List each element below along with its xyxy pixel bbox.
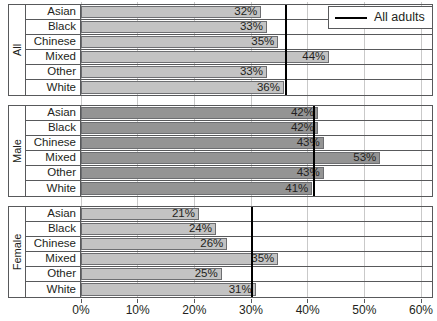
value-label-female-mixed: 35% (251, 253, 274, 265)
bar-cell: 35% (81, 252, 432, 266)
bar-cell: 24% (81, 222, 432, 236)
value-label-all-chinese: 35% (251, 36, 274, 48)
value-label-female-chinese: 26% (200, 238, 223, 250)
bar-cell: 53% (81, 151, 432, 165)
group-label-cell-female: Female (9, 207, 26, 297)
value-label-female-asian: 21% (172, 208, 195, 220)
bar-cell: 41% (81, 181, 432, 196)
bar-male-white (81, 182, 312, 195)
legend-line-marker-icon (335, 17, 367, 19)
bar-row: Chinese26% (26, 237, 432, 252)
value-label-all-white: 36% (257, 82, 280, 94)
legend-label-all-adults: All adults (374, 11, 425, 24)
value-label-all-mixed: 44% (302, 51, 325, 63)
tick-label-40: 40% (296, 304, 320, 316)
category-label-asian: Asian (26, 106, 81, 120)
bar-row: Asian42% (26, 106, 432, 121)
group-label-male: Male (11, 139, 23, 163)
value-label-male-asian: 42% (291, 107, 314, 119)
panel-female: FemaleAsian21%Black24%Chinese26%Mixed35%… (8, 206, 433, 298)
value-label-female-white: 31% (229, 284, 252, 296)
bar-all-mixed (81, 51, 329, 63)
bar-male-mixed (81, 152, 380, 164)
reference-line-all-adults-male (313, 106, 315, 196)
reference-line-all-adults-female (251, 207, 253, 297)
bar-cell: 26% (81, 237, 432, 251)
bar-cell: 36% (81, 80, 432, 95)
category-label-black: Black (26, 121, 81, 135)
bar-row: Mixed53% (26, 151, 432, 166)
category-label-chinese: Chinese (26, 35, 81, 49)
bar-cell: 35% (81, 35, 432, 49)
bar-cell: 43% (81, 166, 432, 180)
category-label-black: Black (26, 222, 81, 236)
value-label-male-mixed: 53% (353, 152, 376, 164)
bar-all-white (81, 81, 284, 94)
category-label-asian: Asian (26, 207, 81, 221)
bar-cell: 43% (81, 136, 432, 150)
value-label-female-black: 24% (189, 223, 212, 235)
category-label-white: White (26, 181, 81, 196)
chart-legend: All adults (328, 6, 433, 29)
category-label-mixed: Mixed (26, 50, 81, 64)
category-label-other: Other (26, 65, 81, 79)
bar-row: White41% (26, 181, 432, 196)
category-label-chinese: Chinese (26, 237, 81, 251)
category-label-mixed: Mixed (26, 252, 81, 266)
x-axis: 0%10%20%30%40%50%60% (0, 299, 437, 321)
bar-male-other (81, 167, 324, 179)
tick-label-50: 50% (352, 304, 376, 316)
bar-row: Chinese35% (26, 35, 432, 50)
bar-row: Mixed44% (26, 50, 432, 65)
value-label-male-white: 41% (285, 183, 308, 195)
group-label-female: Female (11, 234, 23, 271)
value-label-all-asian: 32% (234, 6, 257, 18)
bar-cell: 31% (81, 282, 432, 297)
bar-row: Chinese43% (26, 136, 432, 151)
bar-cell: 42% (81, 106, 432, 120)
group-label-all: All (11, 44, 23, 56)
category-label-chinese: Chinese (26, 136, 81, 150)
bar-cell: 42% (81, 121, 432, 135)
value-label-all-black: 33% (240, 21, 263, 33)
bar-row: White31% (26, 282, 432, 297)
bar-row: Black24% (26, 222, 432, 237)
tick-label-30: 30% (239, 304, 263, 316)
bar-female-mixed (81, 253, 278, 265)
group-label-cell-male: Male (9, 106, 26, 196)
bar-male-chinese (81, 137, 324, 149)
category-label-other: Other (26, 267, 81, 281)
bar-cell: 33% (81, 65, 432, 79)
tick-label-20: 20% (182, 304, 206, 316)
bar-row: Other33% (26, 65, 432, 80)
panel-male: MaleAsian42%Black42%Chinese43%Mixed53%Ot… (8, 105, 433, 197)
category-label-white: White (26, 80, 81, 95)
category-label-mixed: Mixed (26, 151, 81, 165)
bar-row: Other25% (26, 267, 432, 282)
bar-all-chinese (81, 36, 278, 48)
value-label-male-other: 43% (297, 167, 320, 179)
value-label-male-black: 42% (291, 122, 314, 134)
reference-line-all-adults-all (285, 5, 287, 95)
bar-row: Other43% (26, 166, 432, 181)
bar-male-black (81, 122, 318, 134)
tick-label-60: 60% (409, 304, 433, 316)
category-label-asian: Asian (26, 5, 81, 19)
category-label-white: White (26, 282, 81, 297)
bar-row: White36% (26, 80, 432, 95)
bar-row: Asian21% (26, 207, 432, 222)
category-label-black: Black (26, 20, 81, 34)
value-label-all-other: 33% (240, 66, 263, 78)
category-label-other: Other (26, 166, 81, 180)
group-label-cell-all: All (9, 5, 26, 95)
value-label-female-other: 25% (195, 268, 218, 280)
bar-row: Black42% (26, 121, 432, 136)
tick-label-0: 0% (72, 304, 89, 316)
bar-male-asian (81, 107, 318, 119)
bar-row: Mixed35% (26, 252, 432, 267)
tick-label-10: 10% (126, 304, 150, 316)
bar-cell: 25% (81, 267, 432, 281)
value-label-male-chinese: 43% (297, 137, 320, 149)
chart-container: AllAsian32%Black33%Chinese35%Mixed44%Oth… (0, 0, 437, 321)
bar-cell: 21% (81, 207, 432, 221)
